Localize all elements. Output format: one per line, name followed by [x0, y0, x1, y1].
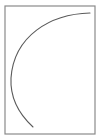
diagram-canvas — [0, 0, 99, 138]
arc-curve — [11, 13, 90, 127]
diagram-frame — [5, 6, 95, 134]
